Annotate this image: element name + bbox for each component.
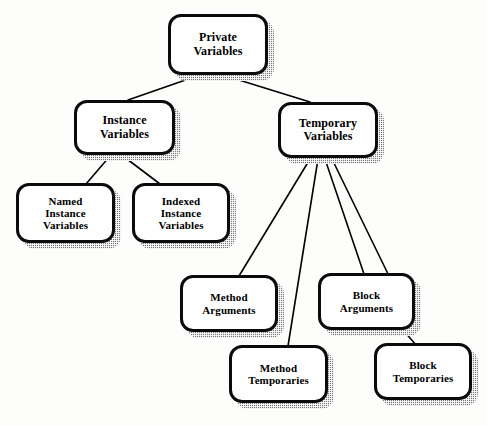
node-named-instance-variables[interactable]: Named Instance Variables (16, 183, 115, 243)
node-label-block-temporaries: Block Temporaries (389, 359, 458, 384)
edge-temporary-variables-to-method-arguments (239, 159, 310, 276)
node-label-instance-variables: Instance Variables (96, 114, 153, 141)
node-method-arguments[interactable]: Method Arguments (180, 275, 278, 332)
node-indexed-instance-variables[interactable]: Indexed Instance Variables (132, 183, 230, 243)
node-label-block-arguments: Block Arguments (336, 289, 397, 314)
node-block-temporaries[interactable]: Block Temporaries (374, 343, 472, 400)
node-label-method-temporaries: Method Temporaries (244, 362, 313, 387)
node-method-temporaries[interactable]: Method Temporaries (229, 345, 328, 403)
node-label-named-instance-variables: Named Instance Variables (39, 195, 92, 232)
node-temporary-variables[interactable]: Temporary Variables (278, 102, 378, 158)
node-label-temporary-variables: Temporary Variables (295, 117, 361, 144)
edge-temporary-variables-to-block-temporaries (332, 159, 390, 278)
edge-temporary-variables-to-block-arguments (325, 159, 364, 274)
node-label-indexed-instance-variables: Indexed Instance Variables (154, 195, 207, 232)
edge-temporary-variables-to-method-temporaries (288, 159, 318, 346)
diagram-canvas: Private VariablesInstance VariablesTempo… (0, 0, 487, 425)
node-label-method-arguments: Method Arguments (198, 291, 259, 316)
node-block-arguments[interactable]: Block Arguments (318, 273, 415, 330)
node-private-variables[interactable]: Private Variables (168, 14, 268, 75)
node-instance-variables[interactable]: Instance Variables (74, 100, 175, 155)
node-label-private-variables: Private Variables (189, 31, 246, 58)
